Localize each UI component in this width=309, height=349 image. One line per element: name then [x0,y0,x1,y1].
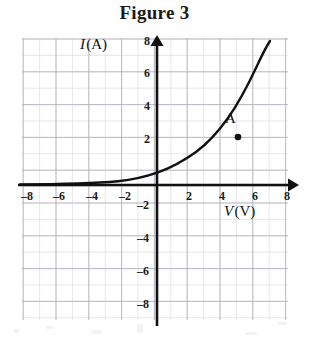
y-tick-label-2: 2 [144,132,150,147]
y-tick-label-6: 6 [144,66,150,81]
x-tick-label-minus8: –8 [21,189,33,204]
x-axis-title: V (V) [224,203,255,220]
x-tick-label-minus6: –6 [53,189,65,204]
x-axis-unit: (V) [234,203,255,219]
x-tick-label-minus4: –4 [86,189,98,204]
y-tick-label-minus2: –2 [137,198,149,213]
y-tick-label-8: 8 [144,34,150,49]
x-axis-symbol: V [224,203,233,219]
x-tick-label-2: 2 [186,189,192,204]
y-axis-arrowhead [151,35,164,46]
point-a-marker [235,134,242,141]
graph-axes-and-curve [22,38,298,320]
x-tick-label-4: 4 [219,189,225,204]
y-tick-label-4: 4 [144,99,150,114]
y-axis-symbol: I [80,36,85,52]
x-tick-label-minus2: –2 [119,189,131,204]
x-tick-label-8: 8 [284,189,290,204]
figure-container: Figure 3 [0,0,309,349]
y-axis-unit: (A) [86,36,107,52]
y-tick-label-minus8: –8 [137,297,149,312]
page-title: Figure 3 [0,2,309,24]
y-tick-label-minus4: –4 [137,231,149,246]
point-a-label: A [225,110,236,127]
graph-plot-area: –8 –6 –4 –2 2 4 6 8 8 6 4 2 –2 –4 –6 –8 … [22,38,288,320]
y-tick-label-minus6: –6 [137,264,149,279]
y-axis-title: I (A) [80,36,107,53]
x-tick-label-6: 6 [252,189,258,204]
